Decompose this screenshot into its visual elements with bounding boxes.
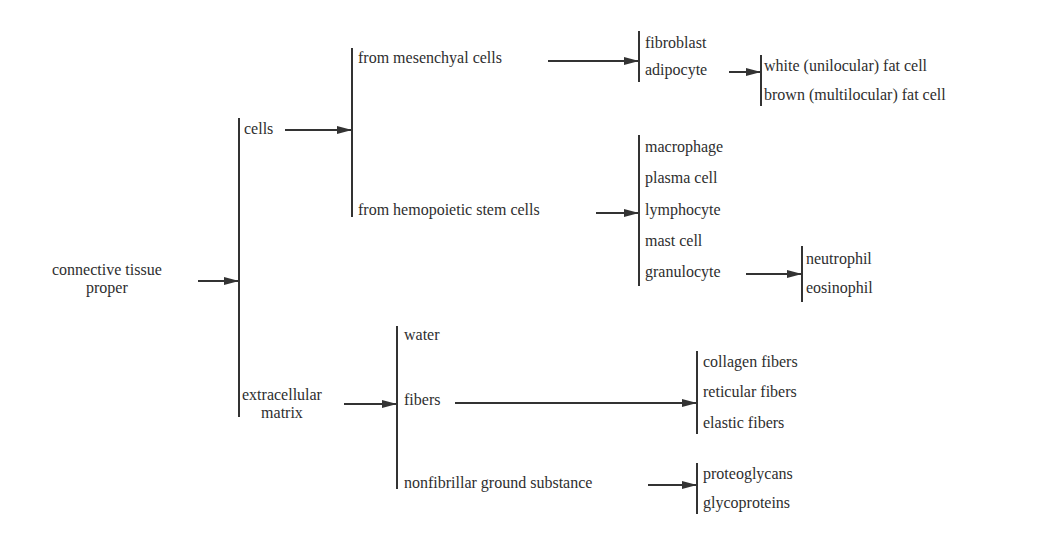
root-label-line1: connective tissue xyxy=(52,261,162,279)
node-neutrophil: neutrophil xyxy=(806,250,872,268)
node-collagen-fibers: collagen fibers xyxy=(703,353,798,371)
bracket-granulocyte-children xyxy=(801,246,803,302)
node-granulocyte: granulocyte xyxy=(645,263,721,281)
node-macrophage: macrophage xyxy=(645,138,723,156)
node-water: water xyxy=(404,326,440,344)
ecm-label-line2: matrix xyxy=(242,404,322,422)
connective-tissue-classification-diagram: connective tissue proper cells extracell… xyxy=(0,0,1047,537)
bracket-cells xyxy=(351,48,353,217)
node-from-mesenchymal-cells: from mesenchyal cells xyxy=(358,49,502,67)
node-eosinophil: eosinophil xyxy=(806,279,873,297)
arrow-adipocyte xyxy=(729,71,760,73)
ecm-label-line1: extracellular xyxy=(242,386,322,404)
node-white-fat-cell: white (unilocular) fat cell xyxy=(764,57,927,75)
bracket-adipocyte-children xyxy=(760,55,762,106)
node-brown-fat-cell: brown (multilocular) fat cell xyxy=(764,86,946,104)
bracket-hemopoietic-children xyxy=(638,135,640,286)
arrow-ecm xyxy=(344,403,396,405)
arrow-granulocyte xyxy=(746,273,801,275)
bracket-ecm xyxy=(396,326,398,489)
arrow-fibers xyxy=(455,402,696,404)
node-mast-cell: mast cell xyxy=(645,232,702,250)
node-reticular-fibers: reticular fibers xyxy=(703,383,797,401)
node-adipocyte: adipocyte xyxy=(645,61,707,79)
bracket-level1 xyxy=(238,118,240,417)
node-proteoglycans: proteoglycans xyxy=(703,465,793,483)
node-glycoproteins: glycoproteins xyxy=(703,494,790,512)
arrow-mesenchymal xyxy=(548,60,638,62)
node-fibroblast: fibroblast xyxy=(645,34,706,52)
node-elastic-fibers: elastic fibers xyxy=(703,414,784,432)
arrow-cells xyxy=(285,129,351,131)
node-cells: cells xyxy=(244,120,273,138)
node-plasma-cell: plasma cell xyxy=(645,169,717,187)
bracket-fibers-children xyxy=(696,351,698,434)
node-nonfibrillar-ground-substance: nonfibrillar ground substance xyxy=(404,474,592,492)
arrow-hemopoietic xyxy=(596,212,638,214)
root-label-line2: proper xyxy=(52,279,162,297)
root-node-connective-tissue-proper: connective tissue proper xyxy=(52,261,162,297)
bracket-ground-children xyxy=(696,463,698,514)
arrow-ground-substance xyxy=(648,484,696,486)
node-fibers: fibers xyxy=(404,391,440,409)
node-from-hemopoietic-stem-cells: from hemopoietic stem cells xyxy=(358,201,540,219)
node-lymphocyte: lymphocyte xyxy=(645,201,721,219)
node-extracellular-matrix: extracellular matrix xyxy=(242,386,322,422)
arrow-root-to-level1 xyxy=(198,280,238,282)
bracket-mesenchymal-children xyxy=(638,31,640,82)
